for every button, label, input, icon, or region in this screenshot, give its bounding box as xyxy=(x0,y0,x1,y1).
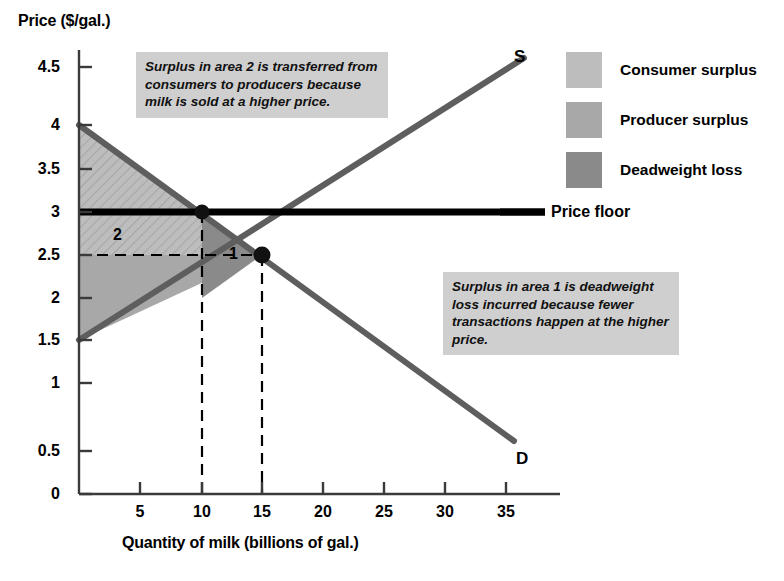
area-label-1: 1 xyxy=(229,245,238,263)
y-tick-label-4: 4 xyxy=(14,116,60,134)
y-tick-label-0: 0 xyxy=(14,485,60,503)
x-tick-label-25: 25 xyxy=(364,503,404,521)
legend-swatch-consumer-surplus xyxy=(566,52,602,88)
y-tick-label-3.5: 3.5 xyxy=(14,160,60,178)
legend-swatch-deadweight-loss xyxy=(566,152,602,188)
legend-label-producer-surplus: Producer surplus xyxy=(620,111,748,129)
x-axis-title: Quantity of milk (billions of gal.) xyxy=(122,534,359,552)
annotation-area-2: Surplus in area 2 is transferred from co… xyxy=(136,52,388,118)
legend-label-consumer-surplus: Consumer surplus xyxy=(620,61,757,79)
y-tick-label-0.5: 0.5 xyxy=(14,442,60,460)
area-label-2: 2 xyxy=(113,226,122,244)
x-tick-marks xyxy=(140,482,506,494)
marker-demand-at-price-floor xyxy=(195,205,210,220)
legend-item-consumer-surplus: Consumer surplus xyxy=(566,48,776,92)
y-tick-label-3: 3 xyxy=(14,203,60,221)
x-tick-label-35: 35 xyxy=(486,503,526,521)
x-tick-label-30: 30 xyxy=(425,503,465,521)
price-floor-label: Price floor xyxy=(551,203,630,221)
legend-item-producer-surplus: Producer surplus xyxy=(566,98,776,142)
annotation-area-1: Surplus in area 1 is deadweight loss inc… xyxy=(443,272,679,355)
y-tick-label-1: 1 xyxy=(14,374,60,392)
legend-swatch-producer-surplus xyxy=(566,102,602,138)
marker-supply-quantity xyxy=(254,247,271,264)
supply-curve-label: S xyxy=(514,47,525,67)
chart-figure: Price ($/gal.) Quantity of milk (billion… xyxy=(0,0,784,581)
y-tick-label-2: 2 xyxy=(14,289,60,307)
x-tick-label-20: 20 xyxy=(303,503,343,521)
y-tick-label-4.5: 4.5 xyxy=(14,58,60,76)
legend: Consumer surplus Producer surplus Deadwe… xyxy=(566,48,776,198)
x-tick-label-10: 10 xyxy=(182,503,222,521)
x-tick-label-5: 5 xyxy=(120,503,160,521)
y-axis-title: Price ($/gal.) xyxy=(18,12,110,30)
x-tick-label-15: 15 xyxy=(242,503,282,521)
legend-label-deadweight-loss: Deadweight loss xyxy=(620,161,742,179)
legend-item-deadweight-loss: Deadweight loss xyxy=(566,148,776,192)
region-area-2 xyxy=(79,212,202,255)
y-tick-label-2.5: 2.5 xyxy=(14,246,60,264)
y-tick-label-1.5: 1.5 xyxy=(14,331,60,349)
demand-curve-label: D xyxy=(516,449,528,469)
